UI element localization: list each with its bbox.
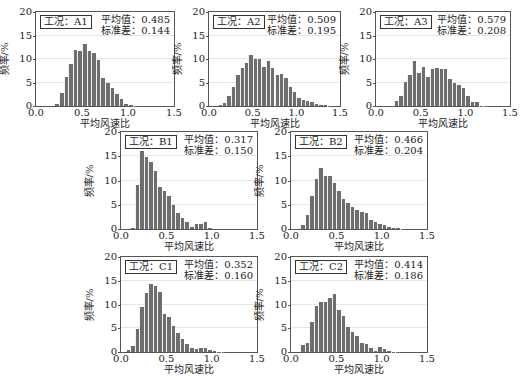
y-tick-mark [288, 328, 291, 329]
y-tick-mark [118, 305, 121, 306]
y-tick-mark [33, 59, 36, 60]
y-tick-mark [288, 181, 291, 182]
y-tick-mark [373, 12, 376, 13]
y-tick-label: 10 [354, 54, 372, 64]
y-tick-label: 20 [99, 252, 117, 262]
y-axis-label: 频率/% [340, 34, 350, 84]
mean-value: 平均值：0.352 [184, 259, 253, 270]
gridline [121, 304, 257, 305]
y-tick-mark [206, 59, 209, 60]
gridline [376, 58, 510, 59]
gridline [209, 58, 340, 59]
stats-annotation: 平均值：0.352标准差：0.160 [184, 259, 253, 281]
y-tick-label: 15 [187, 31, 205, 41]
y-tick-mark [288, 132, 291, 133]
x-tick-label: 0.5 [70, 108, 94, 118]
plot-area: 工况：A3平均值：0.579标准差：0.208 [375, 11, 511, 107]
y-tick-label: 15 [269, 151, 287, 161]
y-tick-label: 10 [269, 176, 287, 186]
y-tick-label: 10 [99, 176, 117, 186]
x-tick-label: 0.0 [279, 231, 303, 241]
stats-annotation: 平均值：0.317标准差：0.150 [184, 134, 253, 156]
y-tick-label: 20 [14, 7, 32, 17]
std-value: 标准差：0.160 [184, 270, 253, 281]
y-tick-mark [373, 59, 376, 60]
std-value: 标准差：0.204 [354, 145, 423, 156]
y-tick-mark [118, 156, 121, 157]
y-tick-label: 5 [269, 200, 287, 210]
y-axis-label: 频率/% [255, 156, 265, 206]
std-value: 标准差：0.144 [101, 25, 170, 36]
gridline [36, 58, 174, 59]
case-label: 工况：C2 [295, 260, 347, 274]
y-tick-label: 20 [269, 127, 287, 137]
std-value: 标准差：0.186 [354, 270, 423, 281]
stats-annotation: 平均值：0.509标准差：0.195 [267, 14, 336, 36]
y-tick-mark [288, 281, 291, 282]
stats-annotation: 平均值：0.579标准差：0.208 [437, 14, 506, 36]
case-label: 工况：B1 [125, 135, 177, 149]
y-tick-mark [33, 12, 36, 13]
y-tick-mark [373, 36, 376, 37]
plot-area: 工况：A1平均值：0.485标准差：0.144 [35, 11, 175, 107]
y-tick-mark [373, 83, 376, 84]
plot-area: 工况：A2平均值：0.509标准差：0.195 [208, 11, 341, 107]
x-axis-label: 平均风速比 [149, 365, 229, 375]
x-tick-label: 0.0 [109, 354, 133, 364]
x-tick-label: 1.0 [200, 231, 224, 241]
y-tick-mark [33, 83, 36, 84]
y-tick-mark [288, 156, 291, 157]
y-tick-mark [288, 257, 291, 258]
std-value: 标准差：0.208 [437, 25, 506, 36]
y-tick-label: 10 [14, 54, 32, 64]
y-tick-mark [118, 132, 121, 133]
stats-annotation: 平均值：0.414标准差：0.186 [354, 259, 423, 281]
x-axis-label: 平均风速比 [319, 242, 399, 252]
mean-value: 平均值：0.509 [267, 14, 336, 25]
y-tick-label: 15 [269, 276, 287, 286]
x-tick-label: 1.0 [370, 231, 394, 241]
histogram-bar [207, 228, 212, 229]
y-tick-mark [118, 281, 121, 282]
gridline [291, 304, 427, 305]
y-axis-label: 频率/% [173, 34, 183, 84]
mean-value: 平均值：0.579 [437, 14, 506, 25]
mean-value: 平均值：0.414 [354, 259, 423, 270]
x-tick-label: 1.5 [328, 108, 352, 118]
plot-area: 工况：B1平均值：0.317标准差：0.150 [120, 131, 258, 230]
case-label: 工况：A1 [40, 15, 92, 29]
x-tick-label: 0.0 [24, 108, 48, 118]
y-tick-label: 5 [354, 78, 372, 88]
x-axis-label: 平均风速比 [319, 365, 399, 375]
y-tick-label: 5 [14, 78, 32, 88]
x-tick-label: 0.5 [324, 354, 348, 364]
mean-value: 平均值：0.485 [101, 14, 170, 25]
x-tick-label: 1.5 [245, 354, 269, 364]
x-tick-label: 0.5 [154, 354, 178, 364]
y-tick-mark [33, 36, 36, 37]
y-tick-label: 10 [187, 54, 205, 64]
mean-value: 平均值：0.466 [354, 134, 423, 145]
y-tick-mark [118, 257, 121, 258]
y-tick-label: 5 [99, 323, 117, 333]
x-tick-label: 1.0 [370, 354, 394, 364]
y-tick-mark [118, 205, 121, 206]
y-tick-label: 10 [99, 300, 117, 310]
y-tick-label: 15 [354, 31, 372, 41]
y-tick-label: 5 [269, 323, 287, 333]
y-tick-mark [118, 181, 121, 182]
x-tick-label: 1.5 [498, 108, 520, 118]
x-tick-label: 0.5 [324, 231, 348, 241]
mean-value: 平均值：0.317 [184, 134, 253, 145]
x-tick-label: 0.5 [154, 231, 178, 241]
y-tick-label: 20 [99, 127, 117, 137]
x-tick-label: 0.0 [279, 354, 303, 364]
x-tick-label: 1.0 [453, 108, 477, 118]
case-label: 工况：B2 [295, 135, 347, 149]
y-tick-label: 20 [269, 252, 287, 262]
x-axis-label: 平均风速比 [403, 119, 483, 129]
y-tick-label: 10 [269, 300, 287, 310]
y-axis-label: 频率/% [0, 34, 10, 84]
y-tick-label: 20 [354, 7, 372, 17]
plot-area: 工况：C1平均值：0.352标准差：0.160 [120, 256, 258, 353]
